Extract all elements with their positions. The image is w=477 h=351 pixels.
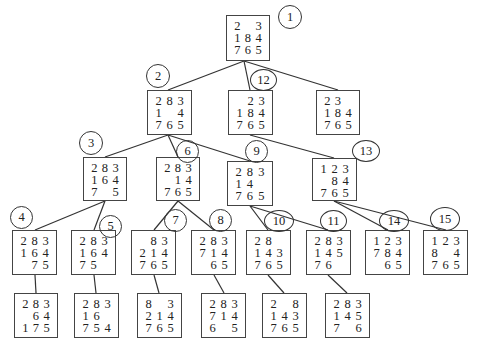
tile: 7 xyxy=(80,322,91,334)
tile: 7 xyxy=(252,259,263,271)
puzzle-node-8: 283 714 65 xyxy=(191,230,236,275)
puzzle-node-11: 283 145 76 xyxy=(306,230,351,275)
tile: 5 xyxy=(40,259,51,271)
tile: 2 xyxy=(20,298,31,310)
order-label-11: 11 xyxy=(320,210,347,232)
tile: 5 xyxy=(343,119,354,131)
tile xyxy=(100,186,111,198)
order-label-14: 14 xyxy=(379,210,409,232)
tile: 7 xyxy=(234,119,245,131)
tile: 6 xyxy=(279,322,290,334)
puzzle-leaf-under-11: 283 145 76 xyxy=(325,293,370,338)
order-label-15: 15 xyxy=(430,207,460,231)
order-label-9: 9 xyxy=(245,140,268,163)
order-label-3: 3 xyxy=(79,131,103,155)
puzzle-node-3: 283 164 75 xyxy=(83,157,127,201)
tile: 7 xyxy=(322,119,333,131)
tile: 5 xyxy=(290,322,301,334)
puzzle-node-10: 28 143 765 xyxy=(246,230,291,275)
tile: 7 xyxy=(29,259,40,271)
tile: 5 xyxy=(219,259,230,271)
tile: 6 xyxy=(263,259,274,271)
tile: 6 xyxy=(207,322,218,334)
tile: 7 xyxy=(268,322,279,334)
tile xyxy=(334,259,345,271)
tile: 4 xyxy=(342,310,353,322)
puzzle-node-7: 83 214 765 xyxy=(131,230,176,275)
tile: 7 xyxy=(137,259,148,271)
tile: 5 xyxy=(110,186,121,198)
order-label-7: 7 xyxy=(164,209,187,232)
tile xyxy=(99,259,110,271)
tile: 7 xyxy=(197,247,208,259)
puzzle-node-right: 23 184 765 xyxy=(316,90,360,135)
puzzle-leaf-under-8: 283 714 65 xyxy=(201,293,246,338)
order-label-10: 10 xyxy=(264,210,294,232)
puzzle-node-6: 283 14 765 xyxy=(156,157,200,201)
tile: 7 xyxy=(318,187,329,199)
tile: 5 xyxy=(274,259,285,271)
order-label-6: 6 xyxy=(176,140,199,163)
tile: 7 xyxy=(331,322,342,334)
tile: 5 xyxy=(183,186,194,198)
tile: 5 xyxy=(451,259,462,271)
tile: 5 xyxy=(256,190,267,202)
order-label-2: 2 xyxy=(146,64,170,88)
tile: 7 xyxy=(153,119,164,131)
tile: 6 xyxy=(323,259,334,271)
tile: 3 xyxy=(102,298,113,310)
tile: 5 xyxy=(253,44,264,56)
tile: 5 xyxy=(340,187,351,199)
tile: 6 xyxy=(100,174,111,186)
tile: 6 xyxy=(329,187,340,199)
tile: 7 xyxy=(162,186,173,198)
puzzle-node-root: 23 184 765 xyxy=(226,15,270,61)
tile: 7 xyxy=(143,322,154,334)
tile: 5 xyxy=(256,119,267,131)
tile: 6 xyxy=(440,259,451,271)
tile xyxy=(371,259,382,271)
tile: 6 xyxy=(353,322,364,334)
tile xyxy=(342,322,353,334)
order-label-8: 8 xyxy=(209,209,232,232)
tile: 6 xyxy=(333,119,344,131)
tile: 6 xyxy=(208,259,219,271)
tile: 6 xyxy=(244,190,255,202)
tile: 7 xyxy=(31,322,42,334)
tile: 2 xyxy=(162,162,173,174)
tile: 5 xyxy=(91,322,102,334)
puzzle-leaf-under-5: 283 16 754 xyxy=(74,293,119,338)
tile: 4 xyxy=(102,322,113,334)
tile: 6 xyxy=(164,119,175,131)
order-label-13: 13 xyxy=(352,140,380,162)
tile: 7 xyxy=(312,259,323,271)
tile: 7 xyxy=(233,190,244,202)
puzzle-node-12: 23 184 765 xyxy=(228,90,273,135)
tile xyxy=(18,259,29,271)
tile: 5 xyxy=(88,259,99,271)
tile: 6 xyxy=(243,44,254,56)
tile: 7 xyxy=(371,247,382,259)
tile: 7 xyxy=(232,44,243,56)
tile xyxy=(197,259,208,271)
puzzle-node-9: 283 14 765 xyxy=(227,161,273,206)
tile: 8 xyxy=(164,95,175,107)
puzzle-node-14: 123 784 65 xyxy=(365,230,410,275)
tile: 5 xyxy=(159,259,170,271)
puzzle-leaf-under-7: 83 214 765 xyxy=(137,293,182,338)
tile: 1 xyxy=(318,163,329,175)
tile: 4 xyxy=(99,247,110,259)
tile: 5 xyxy=(41,322,52,334)
tile: 6 xyxy=(382,259,393,271)
tile: 5 xyxy=(165,322,176,334)
tile: 1 xyxy=(218,310,229,322)
tile: 7 xyxy=(429,259,440,271)
puzzle-node-15-goal: 123 84 765 xyxy=(423,230,468,275)
tile: 1 xyxy=(20,322,31,334)
order-label-4: 4 xyxy=(10,206,33,229)
tile: 7 xyxy=(77,259,88,271)
tile: 6 xyxy=(154,322,165,334)
order-label-1: 1 xyxy=(278,5,302,29)
tile: 5 xyxy=(334,247,345,259)
puzzle-leaf-under-10: 28 143 765 xyxy=(262,293,307,338)
